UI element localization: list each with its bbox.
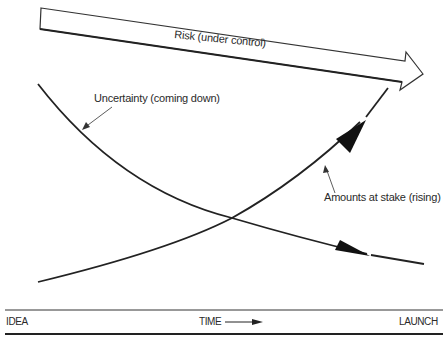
risk-arrow xyxy=(40,8,423,90)
amounts-curve xyxy=(38,122,360,282)
uncertainty-curve-tail xyxy=(371,255,424,264)
axis-end-label: LAUNCH xyxy=(399,316,438,327)
uncertainty-curve xyxy=(38,84,367,254)
amounts-curve-tail xyxy=(366,88,388,117)
time-arrowhead-icon xyxy=(252,319,263,325)
uncertainty-label: Uncertainty (coming down) xyxy=(94,92,220,104)
amounts-arrowhead xyxy=(336,120,366,153)
amounts-pointer-head xyxy=(323,165,329,173)
uncertainty-arrowhead xyxy=(335,240,370,256)
axis-start-label: IDEA xyxy=(6,316,28,327)
axis-time-label: TIME xyxy=(199,316,221,327)
amounts-label: Amounts at stake (rising) xyxy=(324,191,441,203)
uncertainty-pointer-head xyxy=(82,122,90,130)
diagram-canvas xyxy=(0,0,448,337)
